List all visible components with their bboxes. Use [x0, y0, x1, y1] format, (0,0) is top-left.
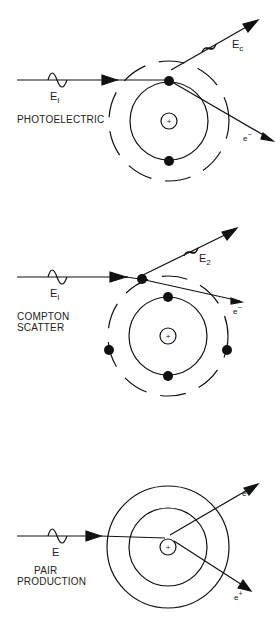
- nucleus-plus-icon: +: [166, 332, 171, 341]
- positron-track: [174, 541, 250, 590]
- electron-dot: [163, 371, 173, 381]
- photoelectric-caption: PHOTOELECTRIC: [17, 114, 104, 125]
- electron-dot: [163, 292, 173, 302]
- outgoing-energy-label: Ec: [232, 38, 243, 53]
- electron-dot: [164, 156, 174, 166]
- arrowhead-icon: [102, 75, 117, 85]
- electron-dot: [164, 76, 174, 86]
- incident-energy-label: EI: [50, 90, 60, 105]
- scattered-energy-label: E2: [199, 252, 211, 267]
- diagram-canvas: + EI Ec e− PHOTOELECTRIC + EI E2 e− COMP…: [0, 0, 275, 623]
- pair-caption-line2: PRODUCTION: [17, 576, 86, 587]
- arrowhead-icon: [110, 272, 126, 282]
- electron-dot: [222, 345, 232, 355]
- electron-dot: [137, 274, 147, 284]
- electron-label: e−: [243, 131, 252, 143]
- photoelectron-line: [172, 82, 272, 140]
- electron-dot: [104, 345, 114, 355]
- incident-energy-label: E: [52, 546, 59, 558]
- nucleus-plus-icon: +: [167, 117, 172, 126]
- nucleus-plus-icon: +: [166, 543, 171, 552]
- pair-caption-line1: PAIR: [34, 565, 57, 576]
- positron-label: e+: [234, 590, 243, 602]
- arrowhead-icon: [86, 531, 101, 541]
- incident-energy-label: EI: [50, 287, 60, 302]
- electron-label: e−: [233, 304, 242, 316]
- compton-caption-line1: COMPTON: [17, 311, 69, 322]
- compton-caption-line2: SCATTER: [17, 322, 64, 333]
